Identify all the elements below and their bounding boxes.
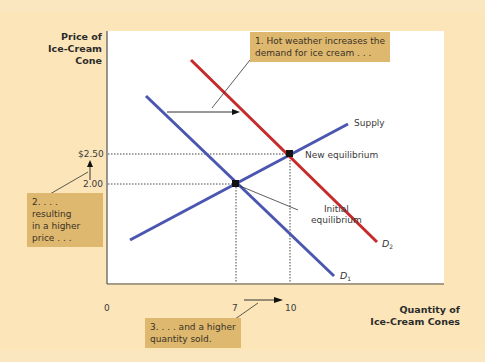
callout-line: demand for ice cream . . .: [255, 47, 385, 59]
quantity-arrowhead-icon: [274, 297, 283, 303]
callout-line: 2. . . . resulting: [32, 196, 98, 220]
initial-eq-leader: [240, 186, 298, 210]
new-equilibrium-point: [286, 150, 293, 157]
callout-line: 3. . . . and a higher: [150, 321, 236, 333]
new-equilibrium-label: New equilibrium: [305, 150, 378, 161]
initial-eq-line: equilibrium: [311, 215, 362, 226]
shift-arrowhead-icon: [232, 109, 240, 115]
x-tick-7: 7: [232, 303, 238, 314]
y-tick-200: 2.00: [83, 179, 103, 190]
x-axis-title: Quantity of Ice-Cream Cones: [340, 304, 460, 328]
d2-subscript: 2: [389, 243, 393, 250]
y-title-line: Cone: [42, 55, 102, 67]
initial-equilibrium-label: Initial equilibrium: [311, 204, 362, 226]
supply-label: Supply: [354, 118, 385, 129]
price-arrowhead-icon: [87, 160, 93, 167]
x-title-line: Ice-Cream Cones: [340, 316, 460, 328]
x-title-line: Quantity of: [340, 304, 460, 316]
initial-equilibrium-point: [232, 180, 239, 187]
callout-higher-price: 2. . . . resulting in a higher price . .…: [27, 193, 103, 247]
callout-line: price . . .: [32, 232, 98, 244]
callout-line: in a higher: [32, 220, 98, 232]
d1-label: D1: [340, 270, 351, 282]
callout-line: quantity sold.: [150, 333, 236, 345]
x-tick-10: 10: [285, 303, 296, 314]
y-tick-250: $2.50: [78, 149, 104, 160]
d1-subscript: 1: [347, 275, 351, 282]
x-tick-0: 0: [104, 303, 110, 314]
callout-line: 1. Hot weather increases the: [255, 35, 385, 47]
y-axis-title: Price of Ice-Cream Cone: [42, 31, 102, 67]
initial-eq-line: Initial: [311, 204, 362, 215]
y-title-line: Price of: [42, 31, 102, 43]
d2-label: D2: [382, 238, 393, 250]
callout-higher-quantity: 3. . . . and a higher quantity sold.: [145, 318, 241, 348]
callout-demand-increase: 1. Hot weather increases the demand for …: [250, 32, 390, 62]
y-title-line: Ice-Cream: [42, 43, 102, 55]
